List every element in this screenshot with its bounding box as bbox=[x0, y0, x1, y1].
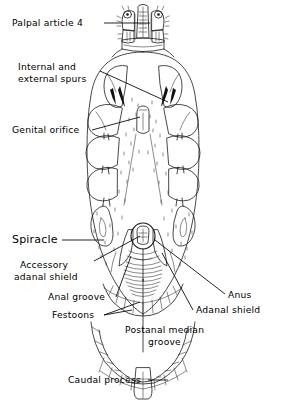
median-groove-dot bbox=[142, 279, 144, 281]
capitulum bbox=[112, 5, 174, 58]
genital-orifice bbox=[137, 106, 149, 134]
leader-genital-orifice bbox=[92, 117, 140, 130]
leader-adanal-shield bbox=[162, 253, 193, 310]
tick-ventral-anatomy-diagram: Palpal article 4 Internal and external s… bbox=[0, 0, 286, 407]
label-festoons: Festoons bbox=[52, 309, 94, 320]
label-anus: Anus bbox=[228, 289, 252, 300]
anus bbox=[131, 223, 155, 249]
label-caudal-process: Caudal process bbox=[68, 374, 141, 385]
label-accessory-adanal-shield-line1: Accessory bbox=[20, 259, 68, 270]
palp-right bbox=[151, 6, 169, 43]
accessory-adanal-shield-left bbox=[111, 252, 116, 272]
leader-anus bbox=[155, 240, 225, 294]
label-spiracle: Spiracle bbox=[12, 233, 58, 246]
leader-internal-external-spurs bbox=[100, 71, 168, 102]
leader-anal-groove bbox=[116, 256, 131, 297]
label-texts: Palpal article 4 Internal and external s… bbox=[12, 17, 260, 385]
coxae-right bbox=[159, 66, 200, 207]
genital-groove-right bbox=[150, 134, 162, 205]
leader-festoons bbox=[104, 302, 140, 315]
coxae-left bbox=[86, 66, 127, 207]
label-accessory-adanal-shield-line2: adanal shield bbox=[14, 271, 78, 282]
label-palpal-article-4: Palpal article 4 bbox=[12, 17, 83, 28]
label-anal-groove: Anal groove bbox=[48, 291, 105, 302]
label-postanal-median-groove-line1: Postanal median bbox=[125, 324, 204, 335]
label-internal-external-spurs-line1: Internal and bbox=[18, 61, 76, 72]
palpal-article-4-left bbox=[124, 11, 132, 18]
palp-left bbox=[117, 6, 135, 43]
hypostome bbox=[137, 5, 149, 39]
label-adanal-shield: Adanal shield bbox=[196, 304, 260, 315]
palpal-article-4-right bbox=[155, 11, 163, 18]
label-internal-external-spurs-line2: external spurs bbox=[18, 73, 87, 84]
label-genital-orifice: Genital orifice bbox=[12, 124, 79, 135]
genital-groove-left bbox=[124, 134, 136, 205]
label-postanal-median-groove-line2: groove bbox=[148, 336, 181, 347]
